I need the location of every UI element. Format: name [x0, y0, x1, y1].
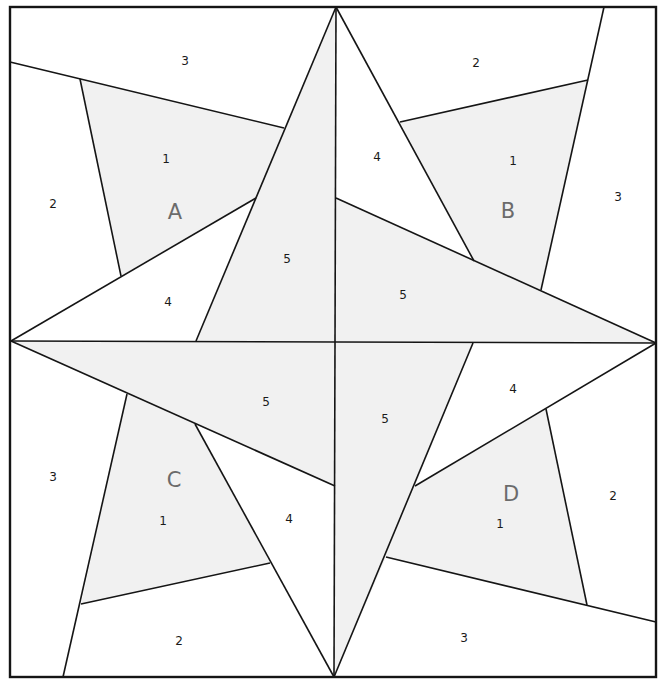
label-c-2: 2: [175, 634, 183, 648]
label-a-3: 3: [181, 54, 189, 68]
label-d-5: 5: [381, 412, 389, 426]
label-b-2: 2: [472, 56, 480, 70]
label-a-5: 5: [283, 252, 291, 266]
label-b-3: 3: [614, 190, 622, 204]
label-d-4: 4: [509, 382, 517, 396]
section-letter-b: B: [501, 199, 515, 223]
label-d-1: 1: [496, 517, 504, 531]
label-b-1: 1: [509, 154, 517, 168]
label-b-4: 4: [373, 150, 381, 164]
label-a-4: 4: [164, 295, 172, 309]
label-a-2: 2: [49, 197, 57, 211]
label-d-3: 3: [460, 631, 468, 645]
section-letter-a: A: [168, 200, 183, 224]
label-c-5: 5: [262, 395, 270, 409]
section-letter-c: C: [167, 468, 182, 492]
label-b-5: 5: [399, 288, 407, 302]
quilt-block-diagram: 3 1 2 A 5 4 2 4 1 3 B 5 5 3 C 4 1 2 4 5 …: [0, 0, 666, 689]
label-c-3: 3: [49, 470, 57, 484]
label-c-4: 4: [285, 512, 293, 526]
label-c-1: 1: [159, 514, 167, 528]
label-a-1: 1: [162, 152, 170, 166]
section-letter-d: D: [503, 482, 519, 506]
label-d-2: 2: [609, 489, 617, 503]
